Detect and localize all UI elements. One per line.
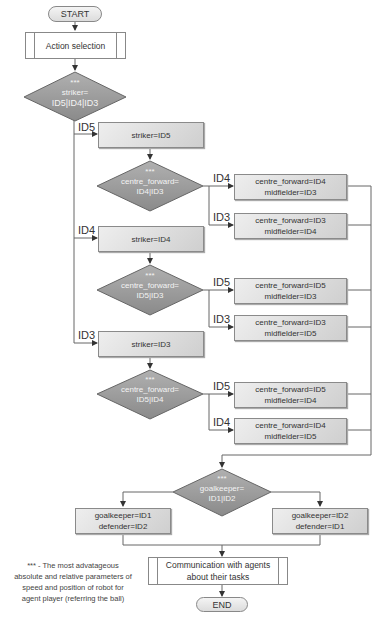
decision-line1: striker=	[24, 88, 126, 98]
decision-line2: ID5|ID3	[97, 291, 203, 301]
edge-label: ID3	[213, 313, 230, 325]
goalkeeper-outcome-box: goalkeeper=ID1 defender=ID2	[75, 508, 171, 534]
end-label: END	[212, 600, 231, 610]
edge-label: ID4	[213, 172, 230, 184]
outcome-line2: midfielder=ID4	[265, 226, 317, 237]
start-label: START	[61, 9, 90, 19]
decision-line2: ID5|ID4	[97, 395, 203, 405]
cf-decision-text-1: *** centre_forward= ID4|ID3	[97, 167, 203, 197]
outcome-line1: centre_forward=ID5	[255, 384, 325, 395]
goalkeeper-outcome-box: goalkeeper=ID2 defender=ID1	[272, 508, 368, 534]
decision-line1: centre_forward=	[97, 177, 203, 187]
outcome-box: centre_forward=ID3 midfielder=ID4	[234, 213, 347, 239]
action-selection-process: Action selection	[25, 32, 126, 59]
goalkeeper-decision-text: *** goalkeeper= ID1|ID2	[173, 474, 271, 504]
outcome-box: centre_forward=ID4 midfielder=ID3	[234, 174, 347, 200]
footnote-line: *** - The most advatageous	[2, 560, 144, 571]
outcome-line1: centre_forward=ID3	[255, 215, 325, 226]
edge-label: ID5	[213, 380, 230, 392]
start-terminal: START	[48, 6, 102, 22]
outcome-line2: defender=ID1	[296, 521, 345, 532]
footnote-line: absolute and relative parameters of	[2, 571, 144, 582]
edge-label-id4: ID4	[78, 224, 95, 236]
edge-label: ID3	[213, 211, 230, 223]
outcome-box: centre_forward=ID5 midfielder=ID3	[234, 278, 347, 304]
marker: ***	[97, 271, 203, 281]
footnote: *** - The most advatageous absolute and …	[2, 560, 144, 604]
edge-label: ID4	[213, 416, 230, 428]
outcome-line2: midfielder=ID5	[265, 431, 317, 442]
edge-label: ID5	[213, 276, 230, 288]
end-terminal: END	[196, 597, 248, 612]
edge-label-id3: ID3	[78, 329, 95, 341]
decision-line1: goalkeeper=	[173, 484, 271, 494]
footnote-line: agent player (referring the ball)	[2, 593, 144, 604]
striker-box-id4: striker=ID4	[98, 226, 204, 252]
striker-box-label: striker=ID5	[132, 130, 171, 141]
decision-line1: centre_forward=	[97, 385, 203, 395]
outcome-line1: centre_forward=ID5	[255, 280, 325, 291]
striker-box-id5: striker=ID5	[98, 122, 204, 148]
communication-line2: about their tasks	[187, 571, 249, 583]
outcome-line1: goalkeeper=ID1	[95, 510, 152, 521]
edge-label-id5: ID5	[78, 121, 95, 133]
striker-decision-text: *** striker= ID5|ID4|ID3	[24, 78, 126, 108]
outcome-box: centre_forward=ID5 midfielder=ID4	[234, 382, 347, 408]
outcome-box: centre_forward=ID3 midfielder=ID5	[234, 315, 347, 341]
communication-line1: Communication with agents	[166, 559, 270, 571]
marker: ***	[173, 474, 271, 484]
outcome-line1: centre_forward=ID3	[255, 317, 325, 328]
decision-line1: centre_forward=	[97, 281, 203, 291]
striker-box-id3: striker=ID3	[98, 331, 204, 357]
outcome-line2: defender=ID2	[99, 521, 148, 532]
cf-decision-text-2: *** centre_forward= ID5|ID3	[97, 271, 203, 301]
outcome-line2: midfielder=ID4	[265, 395, 317, 406]
action-selection-label: Action selection	[46, 40, 106, 52]
outcome-line1: centre_forward=ID4	[255, 420, 325, 431]
striker-box-label: striker=ID4	[132, 234, 171, 245]
marker: ***	[24, 78, 126, 88]
communication-process: Communication with agents about their ta…	[148, 557, 288, 585]
outcome-line2: midfielder=ID3	[265, 291, 317, 302]
marker: ***	[97, 375, 203, 385]
outcome-line2: midfielder=ID5	[265, 328, 317, 339]
striker-box-label: striker=ID3	[132, 339, 171, 350]
outcome-box: centre_forward=ID4 midfielder=ID5	[234, 418, 347, 444]
outcome-line1: centre_forward=ID4	[255, 176, 325, 187]
outcome-line1: goalkeeper=ID2	[292, 510, 349, 521]
decision-line2: ID1|ID2	[173, 494, 271, 504]
footnote-line: speed and position of robot for	[2, 582, 144, 593]
decision-line2: ID4|ID3	[97, 187, 203, 197]
decision-line2: ID5|ID4|ID3	[24, 98, 126, 108]
marker: ***	[97, 167, 203, 177]
cf-decision-text-3: *** centre_forward= ID5|ID4	[97, 375, 203, 405]
flowchart-canvas: START Action selection *** striker= ID5|…	[0, 0, 380, 624]
outcome-line2: midfielder=ID3	[265, 187, 317, 198]
